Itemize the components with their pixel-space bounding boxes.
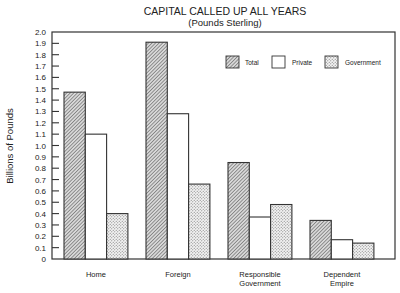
- legend-swatch-total: [226, 56, 239, 68]
- y-tick-label: 0.3: [35, 221, 47, 230]
- bar-total-foreign: [146, 42, 167, 259]
- x-category-label: Government: [239, 279, 281, 288]
- y-tick-label: 1.5: [35, 85, 47, 94]
- y-tick-label: 1.8: [35, 51, 47, 60]
- y-tick-label: 0.4: [35, 210, 47, 219]
- x-category-label: Responsible: [239, 270, 280, 279]
- x-category-label: Empire: [330, 279, 354, 288]
- legend-label-government: Government: [345, 59, 381, 66]
- legend: Total Private Government: [226, 56, 381, 68]
- bar-total-home: [64, 92, 85, 259]
- bar-total-dependent-empire: [310, 220, 331, 259]
- bar-government-home: [107, 214, 128, 259]
- y-tick-label: 2.0: [35, 28, 47, 37]
- y-tick-label: 0.5: [35, 198, 47, 207]
- y-tick-label: 0.6: [35, 187, 47, 196]
- bar-government-foreign: [189, 184, 210, 259]
- legend-swatch-private: [272, 56, 285, 68]
- bar-total-responsible-government: [228, 163, 249, 259]
- y-tick-label: 0.8: [35, 164, 47, 173]
- y-tick-label: 1.0: [35, 142, 47, 151]
- y-axis: 00.10.20.30.40.50.60.70.80.91.01.11.21.3…: [35, 28, 59, 264]
- legend-label-total: Total: [245, 59, 259, 66]
- chart-subtitle: (Pounds Sterling): [188, 17, 261, 28]
- y-tick-label: 0.9: [35, 153, 47, 162]
- bar-chart: CAPITAL CALLED UP ALL YEARS (Pounds Ster…: [0, 0, 400, 293]
- bar-private-home: [85, 134, 106, 259]
- y-tick-label: 1.7: [35, 62, 47, 71]
- x-category-label: Dependent: [324, 270, 362, 279]
- bar-private-responsible-government: [249, 217, 270, 259]
- bar-private-dependent-empire: [331, 240, 352, 259]
- chart-title: CAPITAL CALLED UP ALL YEARS: [144, 5, 307, 17]
- y-axis-label: Billions of Pounds: [4, 108, 15, 184]
- bar-private-foreign: [167, 114, 188, 259]
- bar-government-dependent-empire: [353, 243, 374, 259]
- legend-swatch-government: [325, 56, 338, 68]
- y-tick-label: 1.9: [35, 39, 47, 48]
- y-tick-label: 0.7: [35, 176, 47, 185]
- x-category-label: Foreign: [165, 270, 190, 279]
- y-tick-label: 1.6: [35, 73, 47, 82]
- y-tick-label: 1.3: [35, 107, 47, 116]
- y-tick-label: 0.2: [35, 232, 47, 241]
- y-tick-label: 1.2: [35, 119, 47, 128]
- y-tick-label: 0: [42, 255, 47, 264]
- bar-government-responsible-government: [271, 205, 292, 259]
- x-axis-labels: HomeForeignResponsibleGovernmentDependen…: [86, 270, 361, 288]
- y-tick-label: 0.1: [35, 244, 47, 253]
- bars: [64, 42, 374, 259]
- x-category-label: Home: [86, 270, 106, 279]
- y-tick-label: 1.4: [35, 96, 47, 105]
- legend-label-private: Private: [292, 59, 313, 66]
- y-tick-label: 1.1: [35, 130, 47, 139]
